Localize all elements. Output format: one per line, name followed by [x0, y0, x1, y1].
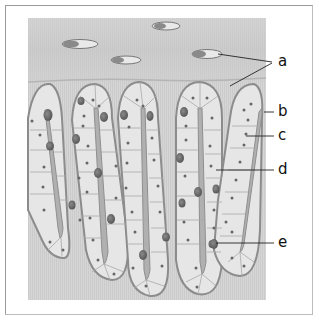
label-a: a — [278, 54, 287, 69]
intestinal-crypt-diagram — [0, 0, 319, 321]
label-b: b — [278, 104, 288, 119]
label-c: c — [278, 128, 286, 143]
label-e: e — [278, 235, 287, 250]
label-d: d — [278, 162, 288, 177]
